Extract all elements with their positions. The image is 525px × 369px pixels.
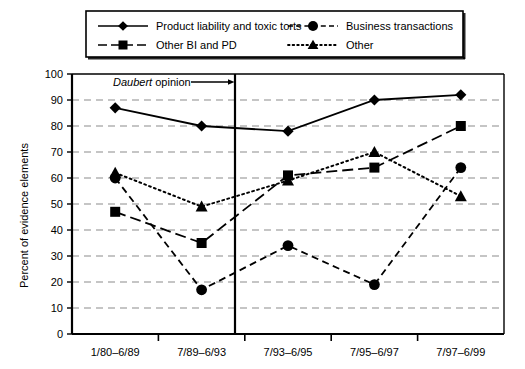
diamond-marker: [369, 94, 380, 105]
y-tick-label: 60: [51, 172, 63, 184]
legend: Product liability and toxic torts Busine…: [86, 11, 466, 60]
x-axis-category-label: 7/97–6/99: [436, 346, 485, 358]
y-tick-label: 30: [51, 250, 63, 262]
triangle-marker: [196, 201, 208, 212]
y-tick-label: 0: [57, 328, 63, 340]
square-marker: [110, 207, 120, 217]
data-series: [109, 146, 467, 212]
legend-label-product-liability: Product liability and toxic torts: [156, 20, 302, 32]
triangle-marker: [109, 167, 121, 178]
daubert-annotation-label: Daubert opinion: [113, 76, 191, 88]
y-axis-title: Percent of evidence elements: [18, 143, 30, 288]
data-series: [110, 89, 467, 137]
series-line: [115, 168, 461, 290]
legend-shadow-bottom: [88, 57, 465, 60]
y-tick-label: 80: [51, 120, 63, 132]
circle-icon: [308, 21, 318, 31]
diamond-marker: [110, 102, 121, 113]
legend-entry-other-bi-pd: Other BI and PD: [98, 39, 237, 51]
y-axis-tick-labels: 0102030405060708090100: [45, 68, 63, 340]
square-icon: [119, 41, 128, 50]
y-tick-label: 90: [51, 94, 63, 106]
legend-border: [86, 11, 463, 57]
x-axis-category-label: 7/93–6/95: [264, 346, 313, 358]
circle-marker: [455, 162, 466, 173]
legend-label-other-bi-pd: Other BI and PD: [156, 39, 237, 51]
legend-shadow-right: [463, 13, 466, 59]
triangle-marker: [455, 190, 467, 201]
circle-marker: [369, 279, 380, 290]
y-tick-label: 20: [51, 276, 63, 288]
diamond-marker: [196, 120, 207, 131]
square-marker: [369, 163, 379, 173]
y-tick-label: 40: [51, 224, 63, 236]
diamond-marker: [455, 89, 466, 100]
gridlines: [67, 74, 504, 334]
legend-label-other: Other: [346, 39, 374, 51]
arrow-right-icon: [228, 79, 235, 85]
circle-marker: [196, 284, 207, 295]
y-tick-label: 100: [45, 68, 63, 80]
legend-entry-business-transactions: Business transactions: [288, 20, 453, 32]
x-axis-category-label: 7/95–6/97: [350, 346, 399, 358]
x-axis-category-label: 7/89–6/93: [177, 346, 226, 358]
legend-label-business-transactions: Business transactions: [346, 20, 453, 32]
diamond-marker: [282, 126, 293, 137]
square-marker: [197, 238, 207, 248]
x-axis-category-labels: 1/80–6/897/89–6/937/93–6/957/95–6/977/97…: [91, 346, 486, 358]
daubert-rest-text: opinion: [152, 76, 191, 88]
chart-container: Product liability and toxic torts Busine…: [0, 0, 525, 369]
square-marker: [456, 121, 466, 131]
y-tick-label: 50: [51, 198, 63, 210]
line-chart-figure: Product liability and toxic torts Busine…: [0, 0, 525, 369]
x-axis-category-label: 1/80–6/89: [91, 346, 140, 358]
data-series-group: [109, 89, 467, 295]
daubert-italic-text: Daubert: [113, 76, 153, 88]
y-tick-label: 70: [51, 146, 63, 158]
circle-marker: [283, 240, 294, 251]
y-tick-label: 10: [51, 302, 63, 314]
